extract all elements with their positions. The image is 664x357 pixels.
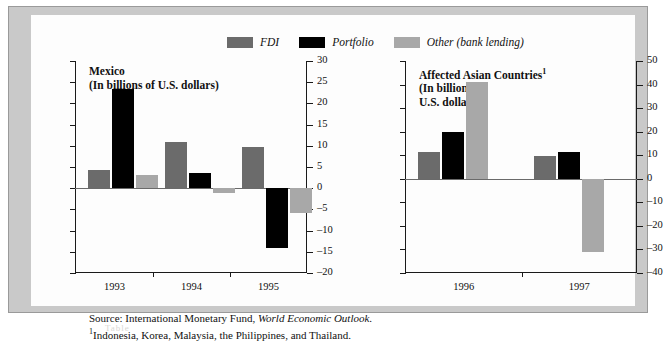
y-tick-label: 30 (317, 54, 351, 65)
legend-swatch-other (394, 37, 420, 48)
plot-area-asia: 50403020100–10–20–30–4019961997 (405, 61, 637, 273)
bar-group: 1997 (522, 61, 638, 272)
y-tick-right (637, 179, 643, 180)
figure-panel: FDIPortfolioOther (bank lending) Mexico(… (31, 15, 635, 306)
y-tick-label: –5 (317, 202, 351, 213)
y-tick-label: 10 (317, 139, 351, 150)
y-tick-label: 20 (317, 96, 351, 107)
x-axis-label: 1993 (76, 281, 153, 292)
bar (582, 179, 604, 252)
y-tick-label: 5 (317, 160, 351, 171)
y-tick-right (307, 273, 313, 274)
y-tick-label: 0 (647, 172, 664, 183)
figure-outer-frame: FDIPortfolioOther (bank lending) Mexico(… (8, 6, 648, 313)
y-tick-right (307, 61, 313, 62)
legend-swatch-fdi (227, 37, 253, 48)
bar (290, 188, 312, 213)
y-tick-label: 0 (317, 181, 351, 192)
bars-container: 19961997 (406, 61, 637, 272)
x-axis-label: 1996 (406, 281, 522, 292)
y-tick-label: –40 (647, 266, 664, 277)
y-tick-label: 25 (317, 75, 351, 86)
bar (466, 82, 488, 179)
bar-group: 1993 (76, 61, 153, 272)
y-tick-label: 15 (317, 118, 351, 129)
y-tick-label: 40 (647, 78, 664, 89)
y-tick-right (637, 249, 643, 250)
bar (165, 142, 187, 189)
legend-label: Portfolio (332, 36, 374, 48)
y-tick-right (307, 231, 313, 232)
x-axis (75, 272, 307, 273)
y-tick-right (307, 252, 313, 253)
y-tick-right (637, 132, 643, 133)
bar (88, 170, 110, 189)
x-tick (153, 272, 154, 277)
bar (442, 132, 464, 179)
bar-group: 1995 (230, 61, 307, 272)
y-tick-right (637, 273, 643, 274)
y-tick-right (637, 108, 643, 109)
x-axis-label: 1997 (522, 281, 638, 292)
bar (242, 147, 264, 188)
y-tick-right (307, 82, 313, 83)
bar (266, 188, 288, 247)
y-tick-right (307, 103, 313, 104)
x-axis-label: 1994 (153, 281, 230, 292)
plot-area-mexico: 302520151050–5–10–15–20199319941995 (75, 61, 307, 273)
x-axis-label: 1995 (230, 281, 307, 292)
y-tick-label: –20 (317, 266, 351, 277)
chart-mexico: Mexico(In billions of U.S. dollars)30252… (67, 61, 355, 291)
y-tick-right (637, 202, 643, 203)
bar (534, 156, 556, 178)
x-tick (522, 272, 523, 277)
y-tick-label: –30 (647, 242, 664, 253)
y-tick-right (637, 155, 643, 156)
legend-item-fdi: FDI (227, 36, 279, 48)
y-tick-label: 30 (647, 101, 664, 112)
background-ghost-text: Table (105, 323, 345, 345)
bar-group: 1994 (153, 61, 230, 272)
bar (112, 89, 134, 189)
legend-item-portfolio: Portfolio (299, 36, 374, 48)
y-tick-label: –20 (647, 219, 664, 230)
bar (558, 152, 580, 179)
y-tick-label: –10 (317, 224, 351, 235)
y-tick-label: 10 (647, 148, 664, 159)
y-tick-left (70, 273, 76, 274)
legend-swatch-portfolio (299, 37, 325, 48)
y-tick-left (400, 273, 406, 274)
y-tick-label: 50 (647, 54, 664, 65)
bar (418, 152, 440, 179)
legend-item-other: Other (bank lending) (394, 36, 524, 48)
chart-asia: Affected Asian Countries1(In billions of… (397, 61, 664, 291)
y-tick-right (637, 61, 643, 62)
y-tick-label: –10 (647, 195, 664, 206)
y-tick-right (637, 226, 643, 227)
legend-label: FDI (260, 36, 279, 48)
y-tick-right (307, 167, 313, 168)
y-tick-label: –15 (317, 245, 351, 256)
source-suffix: . (369, 312, 372, 324)
y-tick-right (637, 85, 643, 86)
bars-container: 199319941995 (76, 61, 307, 272)
chart-legend: FDIPortfolioOther (bank lending) (227, 33, 607, 51)
bar-group: 1996 (406, 61, 522, 272)
y-tick-right (307, 125, 313, 126)
y-tick-label: 20 (647, 125, 664, 136)
y-tick-right (307, 146, 313, 147)
x-tick (230, 272, 231, 277)
bar (189, 173, 211, 188)
legend-label: Other (bank lending) (427, 36, 524, 48)
